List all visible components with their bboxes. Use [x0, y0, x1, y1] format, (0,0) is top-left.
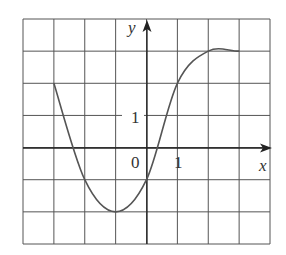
x-axis-label: x	[258, 156, 267, 175]
origin-label: 0	[131, 153, 140, 172]
x-tick-label: 1	[174, 153, 183, 172]
y-axis	[143, 20, 152, 244]
y-axis-label: y	[126, 18, 136, 37]
y-tick-label: 1	[131, 108, 140, 127]
graph: y x 1 0 1	[0, 0, 286, 255]
